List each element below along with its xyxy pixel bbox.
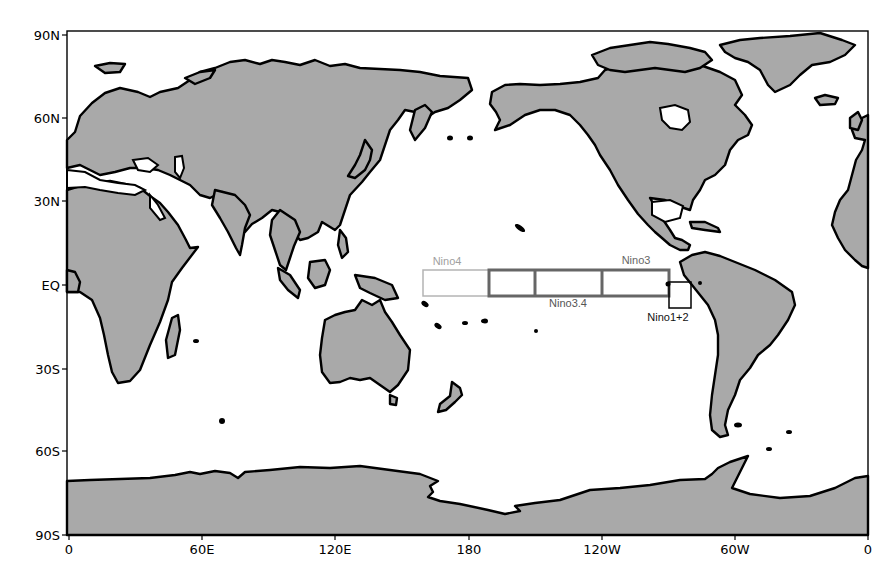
y-label-eq: EQ bbox=[42, 278, 60, 293]
y-label-60s: 60S bbox=[35, 444, 60, 459]
y-label-30s: 30S bbox=[35, 362, 60, 377]
nino12-label: Nino1+2 bbox=[647, 311, 688, 323]
nino34-label: Nino3.4 bbox=[549, 297, 587, 309]
x-label-180: 180 bbox=[457, 542, 482, 557]
y-label-90n: 90N bbox=[34, 28, 60, 43]
world-map: Nino4 Nino3 Nino3.4 Nino1+2 90N 60N 30N … bbox=[0, 0, 895, 584]
x-label-60w: 60W bbox=[720, 542, 750, 557]
x-label-60e: 60E bbox=[190, 542, 215, 557]
nino3-label: Nino3 bbox=[622, 254, 651, 266]
iceland bbox=[815, 95, 838, 105]
x-label-0-east: 0 bbox=[864, 542, 872, 557]
x-axis: 0 60E 120E 180 120W 60W 0 bbox=[65, 535, 872, 557]
x-label-120w: 120W bbox=[583, 542, 621, 557]
tasmania bbox=[390, 395, 397, 405]
y-axis: 90N 60N 30N EQ 30S 60S 90S bbox=[34, 28, 67, 543]
y-label-90s: 90S bbox=[35, 528, 60, 543]
nino4-label: Nino4 bbox=[433, 255, 462, 267]
y-label-60n: 60N bbox=[34, 111, 60, 126]
y-label-30n: 30N bbox=[34, 194, 60, 209]
x-label-120e: 120E bbox=[318, 542, 351, 557]
x-label-0: 0 bbox=[65, 542, 73, 557]
